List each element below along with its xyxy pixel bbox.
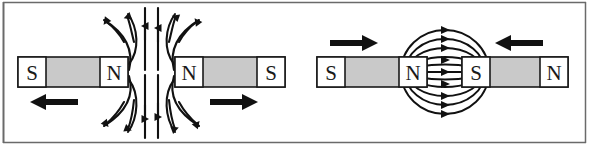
pole-label-south: S [26, 61, 38, 85]
pole-label-north: N [405, 61, 420, 85]
pole-label-south: S [470, 61, 482, 85]
magnet-field-figure: S N N S [0, 0, 589, 145]
pole-label-north: N [181, 61, 196, 85]
attraction-right-magnet: S N [462, 57, 568, 87]
attraction-left-magnet: S N [317, 57, 427, 87]
pole-label-south: S [265, 61, 277, 85]
pole-label-south: S [325, 61, 337, 85]
repulsion-left-magnet: S N [18, 57, 128, 87]
repulsion-right-magnet: N S [175, 57, 285, 87]
pole-label-north: N [106, 61, 121, 85]
magnet-field-diagram: S N N S [0, 0, 589, 145]
pole-label-north: N [546, 61, 561, 85]
